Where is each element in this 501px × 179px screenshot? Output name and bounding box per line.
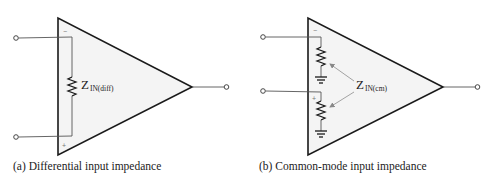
diagram-b-common-mode: − + ZIN(cm) [261,18,480,155]
diagram-a-differential: − + ZIN(diff) [14,18,229,155]
input-terminal-top-b [261,35,266,40]
caption-b: (b) Common-mode input impedance [259,160,427,172]
noninverting-sign-b: + [312,95,316,102]
caption-a: (a) Differential input impedance [13,160,161,172]
opamp-impedance-diagrams: − + ZIN(diff) [0,0,501,179]
inverting-sign-b: − [313,27,317,34]
noninverting-sign-a: + [62,142,66,149]
inverting-sign-a: − [63,28,67,35]
input-terminal-bottom-a [14,135,19,140]
input-terminal-top-a [14,36,19,41]
output-terminal-b [475,85,480,90]
opamp-triangle-a [58,18,192,155]
output-terminal-a [224,85,229,90]
input-terminal-bottom-b [261,89,266,94]
